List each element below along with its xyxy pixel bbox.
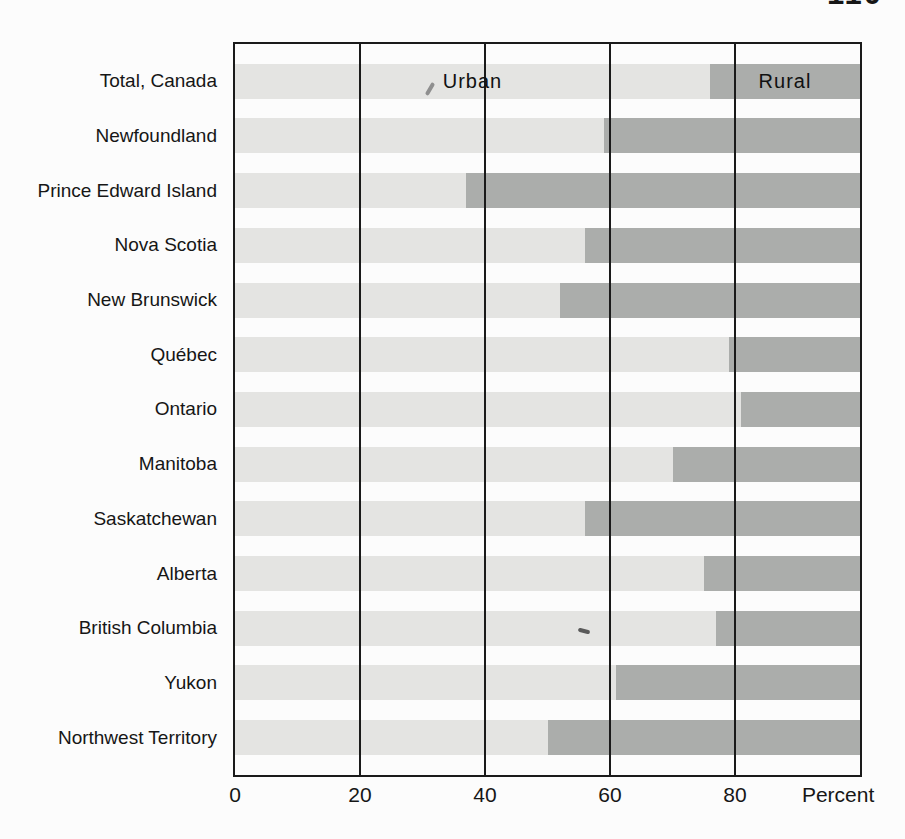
bar-row [235, 283, 860, 318]
category-label: Québec [0, 337, 225, 372]
rural-segment [585, 501, 860, 536]
rural-segment [585, 228, 860, 263]
page-number-text: 110 [827, 0, 899, 11]
plot-area: UrbanRural [233, 42, 862, 777]
urban-segment [235, 665, 616, 700]
bar-row [235, 337, 860, 372]
category-label: Ontario [0, 392, 225, 427]
urban-segment [235, 228, 585, 263]
urban-segment [235, 173, 466, 208]
bar-row [235, 118, 860, 153]
urban-segment [235, 337, 729, 372]
figure-page: 110 Total, CanadaNewfoundlandPrince Edwa… [0, 0, 905, 839]
rural-segment [716, 611, 860, 646]
bar-row [235, 556, 860, 591]
bars-area: UrbanRural [235, 44, 860, 775]
page-number: 110 [827, 0, 899, 12]
rural-segment [704, 556, 860, 591]
category-label: Manitoba [0, 447, 225, 482]
rural-segment [673, 447, 861, 482]
rural-series-label: Rural [710, 64, 860, 99]
x-axis-title: Percent [802, 783, 874, 807]
urban-segment [235, 501, 585, 536]
rural-segment [616, 665, 860, 700]
category-label: Northwest Territory [0, 720, 225, 755]
urban-segment [235, 283, 560, 318]
urban-segment [235, 556, 704, 591]
urban-segment [235, 720, 548, 755]
category-label: British Columbia [0, 611, 225, 646]
category-labels: Total, CanadaNewfoundlandPrince Edward I… [0, 44, 225, 775]
bar-row [235, 228, 860, 263]
rural-segment [560, 283, 860, 318]
category-label: Alberta [0, 556, 225, 591]
bar-row [235, 447, 860, 482]
category-label: Saskatchewan [0, 501, 225, 536]
category-label: Newfoundland [0, 118, 225, 153]
urban-segment [235, 611, 716, 646]
bar-row [235, 665, 860, 700]
category-label: Yukon [0, 665, 225, 700]
urban-segment [235, 447, 673, 482]
x-tick-label: 80 [723, 783, 746, 807]
bar-row [235, 501, 860, 536]
category-label: Nova Scotia [0, 228, 225, 263]
rural-segment [466, 173, 860, 208]
rural-segment: Rural [710, 64, 860, 99]
x-tick-label: 40 [473, 783, 496, 807]
urban-series-label: Urban [235, 64, 710, 99]
bar-row [235, 392, 860, 427]
x-axis: Percent 020406080 [235, 783, 860, 809]
bar-row [235, 720, 860, 755]
urban-segment [235, 392, 741, 427]
x-tick-label: 60 [598, 783, 621, 807]
rural-segment [548, 720, 861, 755]
rural-segment [741, 392, 860, 427]
bar-row [235, 611, 860, 646]
category-label: New Brunswick [0, 283, 225, 318]
urban-segment [235, 118, 604, 153]
rural-segment [729, 337, 860, 372]
category-label: Prince Edward Island [0, 173, 225, 208]
category-label: Total, Canada [0, 64, 225, 99]
urban-segment: Urban [235, 64, 710, 99]
bar-row: UrbanRural [235, 64, 860, 99]
x-tick-label: 0 [229, 783, 241, 807]
rural-segment [604, 118, 860, 153]
bar-row [235, 173, 860, 208]
x-tick-label: 20 [348, 783, 371, 807]
